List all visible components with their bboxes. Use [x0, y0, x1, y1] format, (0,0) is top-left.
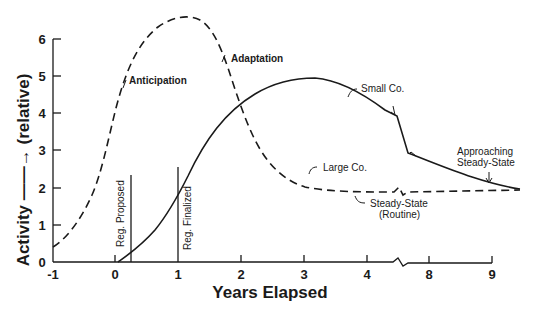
y-tick: 5: [38, 69, 45, 84]
y-tick: 0: [38, 255, 45, 270]
y-tick: 6: [38, 32, 45, 47]
large-co-label: Large Co.: [323, 162, 367, 173]
reg-proposed-label: Reg. Proposed: [115, 180, 126, 247]
y-axis-title: Activity ——→ (relative): [14, 74, 33, 267]
approaching-steady-state-label: Steady-State: [457, 157, 515, 168]
x-tick: 3: [300, 267, 307, 282]
x-tick: 8: [425, 267, 432, 282]
x-tick: 1: [174, 267, 181, 282]
x-tick: 9: [488, 267, 495, 282]
adaptation-label: Adaptation: [231, 53, 283, 64]
steady-state-label: Steady-State: [370, 198, 428, 209]
x-tick: -1: [47, 267, 59, 282]
y-tick: 3: [38, 143, 45, 158]
y-tick: 2: [38, 181, 45, 196]
x-tick-labels: -1 0 1 2 3 4 8 9: [47, 267, 495, 282]
approaching-label: Approaching: [457, 146, 513, 157]
x-tick: 4: [363, 267, 371, 282]
routine-label: (Routine): [379, 209, 420, 220]
x-tick: 2: [237, 267, 244, 282]
y-tick: 4: [38, 106, 46, 121]
x-axis-title: Years Elapsed: [212, 283, 327, 302]
regulation-markers: [131, 167, 178, 262]
y-tick-labels: 0 1 2 3 4 5 6: [38, 32, 46, 270]
x-tick: 0: [111, 267, 118, 282]
anticipation-label: Anticipation: [129, 75, 187, 86]
activity-chart: 0 1 2 3 4 5 6 -1 0 1 2 3 4 8 9 Years Ela…: [0, 0, 538, 309]
small-co-label: Small Co.: [361, 83, 404, 94]
y-tick: 1: [38, 218, 45, 233]
reg-finalized-label: Reg. Finalized: [182, 186, 193, 250]
y-axis: [53, 39, 61, 262]
